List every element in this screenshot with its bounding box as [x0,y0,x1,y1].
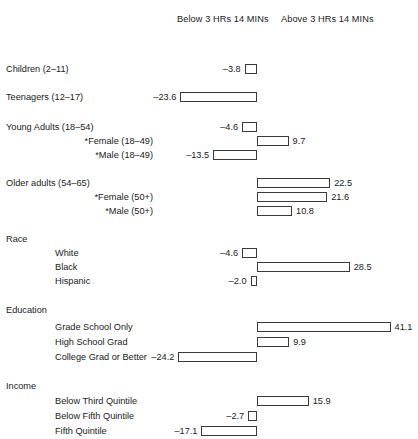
category-label: White [55,247,79,260]
column-header-above: Above 3 HRs 14 MINs [281,14,374,24]
group-heading: Education [6,304,47,317]
category-label: *Male (18–49) [95,149,153,162]
bar-value-label: –2.0 [229,275,247,288]
category-label: Below Fifth Quintile [55,410,134,423]
chart-row: Below Third Quintile15.9 [0,394,418,410]
category-label: Teenagers (12–17) [6,91,83,104]
category-label: High School Grad [55,336,128,349]
bar [201,426,257,436]
category-label: Black [55,261,77,274]
bar-value-label: 10.8 [296,205,314,218]
chart-row: *Male (18–49)–13.5 [0,148,418,164]
bar-value-label: –23.6 [153,91,176,104]
category-label: *Female (18–49) [85,135,153,148]
category-label: College Grad or Better [55,351,147,364]
category-label: Young Adults (18–54) [6,121,94,134]
group-heading: Race [6,233,27,246]
bar [180,92,257,102]
bar-value-label: 41.1 [395,321,413,334]
category-label: *Female (50+) [95,191,153,204]
bar [242,248,257,258]
bar [178,352,257,362]
column-header-below: Below 3 HRs 14 MINs [177,14,269,24]
bar [257,396,309,406]
bar [257,178,330,188]
bar [257,136,289,146]
category-label: Older adults (54–65) [6,177,90,190]
bar-value-label: 9.9 [293,336,306,349]
chart-row: Children (2–11)–3.8 [0,62,418,78]
bar [251,276,258,286]
bar-value-label: 15.9 [313,395,331,408]
chart-row: Fifth Quintile–17.1 [0,424,418,439]
bar-value-label: 9.7 [293,135,306,148]
bar-value-label: 21.6 [331,191,349,204]
bar [242,122,257,132]
bar-value-label: –17.1 [174,425,197,438]
chart-row: College Grad or Better–24.2 [0,350,418,366]
category-label: Hispanic [55,275,90,288]
category-label: Grade School Only [55,321,133,334]
chart-row: Education [0,303,418,319]
chart-row: *Male (50+)10.8 [0,204,418,220]
category-label: Fifth Quintile [55,425,107,438]
bar-value-label: –24.2 [151,351,174,364]
group-heading: Income [6,380,36,393]
bar-value-label: 22.5 [334,177,352,190]
chart-row: Grade School Only41.1 [0,320,418,336]
category-label: Below Third Quintile [55,395,137,408]
bar-value-label: –13.5 [186,149,209,162]
diverging-bar-chart: Below 3 HRs 14 MINs Above 3 HRs 14 MINs … [0,0,418,439]
bar [248,411,257,421]
bar [245,64,257,74]
chart-row: High School Grad9.9 [0,335,418,351]
bar-value-label: –3.8 [223,63,241,76]
chart-row: Hispanic–2.0 [0,274,418,290]
chart-row: Below Fifth Quintile–2.7 [0,409,418,425]
bar-value-label: –4.6 [220,121,238,134]
category-label: Children (2–11) [6,63,69,76]
chart-row: Income [0,379,418,395]
bar-value-label: 28.5 [354,261,372,274]
bar [257,322,391,332]
bar-value-label: –2.7 [226,410,244,423]
chart-row: Teenagers (12–17)–23.6 [0,90,418,106]
bar [257,192,327,202]
bar [213,150,257,160]
category-label: *Male (50+) [105,205,153,218]
bar [257,262,350,272]
bar [257,337,289,347]
bar-value-label: –4.6 [220,247,238,260]
bar [257,206,292,216]
